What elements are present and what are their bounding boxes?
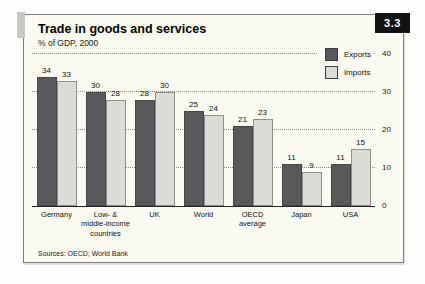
x-axis-labels: GermanyLow- & middle-income countriesUKW… — [32, 210, 375, 238]
x-category-label: Low- & middle-income countries — [81, 210, 130, 238]
bar-group: 3028 — [81, 81, 130, 206]
value-label: 30 — [160, 81, 169, 90]
x-category-label: OECD average — [228, 210, 277, 238]
bar-group: 3433 — [32, 66, 81, 206]
bar-with-label: 25 — [184, 100, 204, 206]
y-tick-10: 10 — [382, 163, 391, 172]
bar-group: 2123 — [228, 108, 277, 206]
bar-with-label: 28 — [135, 89, 155, 206]
legend-label: Imports — [344, 68, 371, 77]
legend-item: Exports — [325, 48, 371, 61]
legend: ExportsImports — [317, 48, 373, 86]
value-label: 30 — [91, 81, 100, 90]
bar-with-label: 33 — [57, 70, 77, 206]
source-note: Sources: OECD; World Bank — [38, 250, 128, 257]
corner-tab — [17, 12, 25, 38]
plot-area: ExportsImports 3433302828302524212311911… — [32, 54, 375, 207]
y-tick-20: 20 — [382, 125, 391, 134]
exports-bar — [282, 164, 302, 206]
bar-with-label: 24 — [204, 104, 224, 206]
value-label: 11 — [287, 153, 295, 162]
imports-bar — [351, 149, 371, 206]
page: 3.3 Trade in goods and services % of GDP… — [0, 0, 425, 284]
bar-with-label: 23 — [253, 108, 273, 206]
bar-group: 2830 — [130, 81, 179, 206]
imports-bar — [253, 119, 273, 206]
x-category-label: UK — [130, 210, 179, 238]
bar-with-label: 9 — [302, 161, 322, 206]
bar-with-label: 34 — [37, 66, 57, 206]
x-category-label: World — [179, 210, 228, 238]
legend-swatch-exports — [325, 48, 338, 61]
value-label: 21 — [238, 115, 247, 124]
bar-with-label: 30 — [155, 81, 175, 206]
value-label: 34 — [42, 66, 51, 75]
exports-bar — [331, 164, 351, 206]
y-tick-40: 40 — [382, 49, 391, 58]
value-label: 28 — [111, 89, 120, 98]
bar-with-label: 15 — [351, 138, 371, 206]
imports-bar — [57, 81, 77, 206]
x-category-label: Japan — [277, 210, 326, 238]
value-label: 28 — [140, 89, 149, 98]
legend-item: Imports — [325, 66, 371, 79]
exports-bar — [37, 77, 57, 206]
chart-subtitle: % of GDP, 2000 — [38, 38, 403, 48]
bar-group: 1115 — [326, 138, 375, 206]
bar-chart: ExportsImports 3433302828302524212311911… — [32, 54, 399, 207]
value-label: 11 — [336, 153, 344, 162]
exports-bar — [86, 92, 106, 206]
bar-with-label: 21 — [233, 115, 253, 206]
value-label: 9 — [309, 161, 313, 170]
y-axis: 010203040 — [375, 54, 399, 206]
figure-number-badge: 3.3 — [375, 13, 410, 33]
value-label: 15 — [356, 138, 365, 147]
x-category-label: Germany — [32, 210, 81, 238]
value-label: 23 — [258, 108, 267, 117]
chart-title: Trade in goods and services — [38, 22, 403, 36]
imports-bar — [155, 92, 175, 206]
bar-with-label: 30 — [86, 81, 106, 206]
chart-header: Trade in goods and services % of GDP, 20… — [24, 15, 403, 48]
x-category-label: USA — [326, 210, 375, 238]
value-label: 33 — [62, 70, 71, 79]
bar-group: 119 — [277, 153, 326, 206]
bar-group: 2524 — [179, 100, 228, 206]
exports-bar — [135, 100, 155, 206]
bar-with-label: 11 — [331, 153, 351, 206]
chart-panel: 3.3 Trade in goods and services % of GDP… — [23, 14, 404, 263]
imports-bar — [106, 100, 126, 206]
imports-bar — [204, 115, 224, 206]
value-label: 24 — [209, 104, 218, 113]
value-label: 25 — [189, 100, 198, 109]
imports-bar — [302, 172, 322, 206]
y-tick-30: 30 — [382, 87, 391, 96]
exports-bar — [184, 111, 204, 206]
legend-label: Exports — [344, 50, 371, 59]
legend-swatch-imports — [325, 66, 338, 79]
bar-with-label: 11 — [282, 153, 302, 206]
bar-with-label: 28 — [106, 89, 126, 206]
exports-bar — [233, 126, 253, 206]
y-tick-0: 0 — [382, 201, 386, 210]
